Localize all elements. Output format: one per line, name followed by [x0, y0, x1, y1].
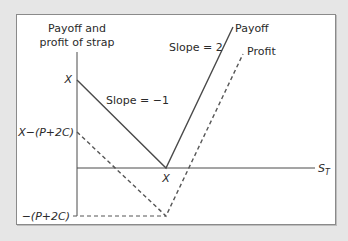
y-axis-title-line2: profit of strap	[39, 36, 114, 49]
slope-right-label: Slope = 2	[169, 41, 223, 54]
strap-payoff-diagram: Payoff and profit of strap X X−(P+2C) −(…	[0, 0, 348, 241]
y-tick-x: X	[63, 73, 72, 86]
y-tick-neg-cost: −(P+2C)	[22, 210, 70, 223]
profit-line	[77, 54, 243, 216]
y-axis-title-line1: Payoff and	[48, 22, 106, 35]
x-tick-strike: X	[161, 172, 170, 185]
y-tick-x-minus-cost: X−(P+2C)	[17, 126, 74, 139]
profit-label: Profit	[247, 45, 276, 58]
payoff-label: Payoff	[235, 22, 269, 35]
x-axis-label: ST	[318, 162, 331, 177]
slope-left-label: Slope = −1	[106, 94, 169, 107]
